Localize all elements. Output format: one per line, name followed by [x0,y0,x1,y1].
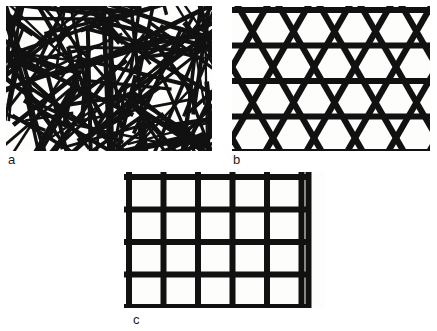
figure-canvas: a b c [0,0,437,331]
panel-c-label: c [133,313,140,326]
panel-a-random-fiber-mat [6,6,212,151]
panel-b-label: b [233,153,240,166]
biaxial-grid-graphic [124,172,325,308]
triaxial-grid-graphic [232,6,430,151]
panel-b-triaxial-grid [232,6,430,151]
panel-a-label: a [8,153,15,166]
panel-c-biaxial-grid [124,172,325,308]
random-fiber-mat-graphic [6,6,212,151]
